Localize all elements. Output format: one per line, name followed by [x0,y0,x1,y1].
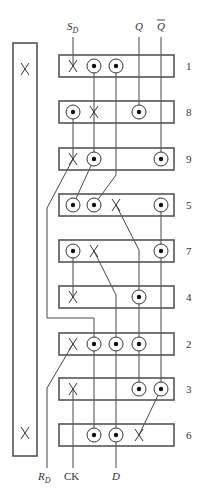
gate-number-label: 9 [186,153,192,165]
signal-label: Q [157,20,165,32]
signal-labels: SDQQRDCKD [37,20,165,485]
gate-number-label: 2 [186,338,192,350]
cross-icon [69,338,77,350]
input-dot-icon [66,198,80,212]
gate-6: 6 [59,424,192,446]
input-dot-icon [109,428,123,442]
wire [116,205,139,297]
tall-block-rect [13,43,37,456]
cross-icon [21,427,29,439]
gate-2: 2 [59,333,192,355]
input-dot-icon [109,59,123,73]
gate-number-label: 7 [186,245,192,257]
wire [47,344,73,468]
wire [94,66,116,205]
cross-icon [90,245,98,257]
signal-label: Q [135,20,143,32]
gate-8: 8 [59,101,192,123]
input-dot-icon [154,152,168,166]
cross-icon [21,63,29,75]
gate-9: 9 [59,148,192,170]
gate-3: 3 [59,378,192,400]
gate-number-label: 8 [186,106,192,118]
input-dot-icon [154,244,168,258]
gate-5: 5 [59,194,192,216]
gate-number-label: 1 [186,60,192,72]
gate-number-label: 6 [186,429,192,441]
gate-4: 4 [59,286,192,308]
input-dot-icon [87,428,101,442]
tall-block [13,43,37,456]
input-dot-icon [87,152,101,166]
input-dot-icon [132,290,146,304]
cross-icon [135,429,143,441]
signal-label: SD [67,20,79,35]
signal-label: RD [37,470,51,485]
gate-boxes: 189574236 [59,55,192,446]
input-dot-icon [87,198,101,212]
input-dot-icon [109,337,123,351]
wire [139,389,161,435]
wire [94,251,116,344]
signal-label: D [111,470,120,482]
input-dot-icon [66,244,80,258]
gate-1: 1 [59,55,192,77]
input-dot-icon [132,105,146,119]
wire [73,159,94,205]
input-dot-icon [132,382,146,396]
input-dot-icon [132,337,146,351]
flip-flop-wiring-diagram: 189574236 SDQQRDCKD [0,0,213,502]
gate-number-label: 5 [186,199,192,211]
gate-7: 7 [59,240,192,262]
input-dot-icon [154,198,168,212]
gate-number-label: 3 [186,383,192,395]
input-dot-icon [87,337,101,351]
gate-number-label: 4 [186,291,192,303]
signal-label: CK [64,470,79,482]
input-dot-icon [66,105,80,119]
input-dot-icon [87,59,101,73]
input-dot-icon [154,382,168,396]
cross-icon [112,199,120,211]
